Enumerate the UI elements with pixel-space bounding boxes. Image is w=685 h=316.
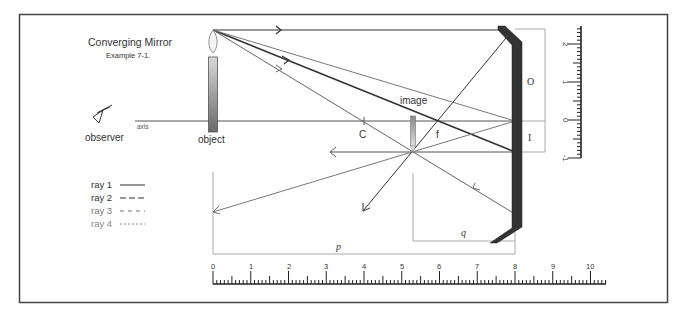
h-tick-label: 5: [400, 262, 404, 271]
h-tick-label: 4: [362, 262, 366, 271]
v-tick-label: 2: [561, 42, 570, 46]
v-tick-label: -1: [561, 155, 570, 162]
center-label: C: [359, 129, 366, 140]
image-height-label: I: [528, 132, 531, 143]
h-tick-label: 10: [586, 262, 594, 271]
h-tick-label: 7: [475, 262, 479, 271]
h-tick-label: 9: [551, 262, 555, 271]
v-tick-label: 1: [561, 80, 570, 84]
diagram-subtitle: Example 7-1.: [106, 51, 150, 60]
object-distance-label: p: [335, 241, 341, 252]
h-tick-label: 1: [249, 262, 253, 271]
h-tick-label: 8: [513, 262, 517, 271]
object-height-label: O: [527, 76, 534, 87]
object-candle: [209, 30, 218, 132]
legend-label: ray 1: [91, 179, 112, 190]
axis-label: axis: [137, 123, 149, 130]
h-tick-label: 0: [211, 262, 215, 271]
h-tick-label: 3: [324, 262, 328, 271]
legend-label: ray 3: [91, 205, 112, 216]
diagram-title: Converging Mirror: [88, 36, 173, 48]
object-label: object: [198, 134, 225, 145]
image-distance-label: q: [461, 227, 466, 238]
observer-label: observer: [85, 132, 125, 143]
legend-label: ray 2: [91, 192, 112, 203]
h-tick-label: 2: [287, 262, 291, 271]
h-tick-label: 6: [437, 262, 441, 271]
v-tick-label: 0: [561, 118, 570, 122]
focus-label: f: [436, 129, 439, 140]
legend-label: ray 4: [91, 218, 112, 229]
image-candle: [411, 116, 416, 152]
ray-diagram: Converging Mirror Example 7-1. O I p q a…: [0, 0, 685, 316]
image-label: image: [400, 95, 428, 106]
